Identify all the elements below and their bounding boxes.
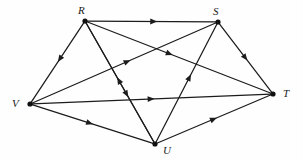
- arrowhead-r-to-s-icon: [150, 19, 157, 25]
- edge-u-to-s: [156, 24, 217, 142]
- vertex-node-u[interactable]: [152, 141, 157, 146]
- directed-graph-figure: RSTUV: [0, 0, 303, 161]
- vertex-label-t: T: [283, 88, 289, 99]
- vertex-label-s: S: [213, 6, 219, 17]
- arrowhead-v-to-t-icon: [148, 96, 155, 102]
- vertex-label-u: U: [163, 145, 171, 156]
- arrowhead-s-to-t-icon: [241, 53, 248, 60]
- edge-r-to-v: [31, 23, 84, 103]
- vertex-node-v[interactable]: [27, 101, 32, 106]
- arrowhead-r-to-t-icon: [165, 50, 173, 55]
- vertex-label-v: V: [12, 98, 19, 109]
- vertex-node-s[interactable]: [215, 19, 220, 24]
- arrowhead-u-to-t-icon: [209, 118, 217, 123]
- arrowhead-v-to-s-icon: [123, 60, 131, 65]
- arrowhead-v-to-u-icon: [86, 119, 94, 125]
- graph-canvas: [0, 0, 303, 161]
- vertex-label-r: R: [78, 5, 85, 16]
- edges-group: [31, 19, 272, 144]
- vertex-node-r[interactable]: [82, 18, 87, 23]
- vertices-group: [27, 18, 275, 146]
- arrowhead-r-to-v-icon: [58, 55, 64, 62]
- edge-v-to-s: [32, 23, 216, 103]
- vertex-node-t[interactable]: [270, 91, 275, 96]
